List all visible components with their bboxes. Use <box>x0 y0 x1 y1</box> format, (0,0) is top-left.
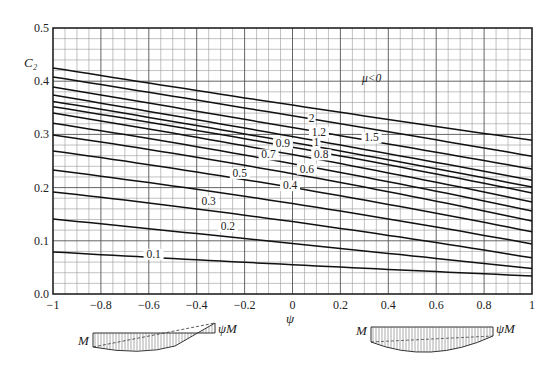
x-tick-label: −1 <box>47 298 60 312</box>
y-tick-label: 0.2 <box>34 181 49 195</box>
y-tick-label: 0.1 <box>34 234 49 248</box>
moment-diagram-reverse-curvature: M ψM <box>77 321 238 351</box>
diagram2-left-label: M <box>355 323 368 338</box>
moment-diagram-single-curvature: M ψM <box>355 321 516 352</box>
diagram2-right-label: ψM <box>496 321 516 336</box>
curve-label: 0.2 <box>221 220 236 232</box>
hatch-fill <box>95 325 212 351</box>
x-tick-label: −0.4 <box>186 298 208 312</box>
curve-label: 2 <box>309 112 315 124</box>
x-tick-label: 0.6 <box>429 298 444 312</box>
curve-label: 1 <box>314 136 320 148</box>
curve-label: 0.9 <box>276 137 291 149</box>
curve-label: 0.4 <box>283 179 298 191</box>
x-tick-label: −0.6 <box>138 298 160 312</box>
curve-label: 0.6 <box>300 163 315 175</box>
curve-label: 0.1 <box>146 248 161 260</box>
x-axis-ticks: −1−0.8−0.6−0.4−0.200.20.40.60.81 <box>47 298 535 312</box>
x-tick-label: 1 <box>529 298 535 312</box>
curve-label: 0.3 <box>201 195 216 207</box>
mu-annotation: μ<0 <box>361 72 382 85</box>
x-tick-label: 0 <box>290 298 296 312</box>
curve-label: 0.8 <box>314 148 329 160</box>
y-tick-label: 0.3 <box>34 127 49 141</box>
x-tick-label: −0.8 <box>90 298 112 312</box>
curve-label: 0.7 <box>261 148 276 160</box>
y-axis-title: C₂ <box>24 55 38 70</box>
curve-label: 0.5 <box>233 167 248 179</box>
x-tick-label: 0.4 <box>381 298 396 312</box>
x-tick-label: 0.2 <box>333 298 348 312</box>
x-axis-title: ψ <box>286 311 295 326</box>
x-tick-label: 0.8 <box>477 298 492 312</box>
c2-chart: 21.51.210.90.80.70.60.50.40.30.20.1 0.00… <box>0 0 557 374</box>
curve-label: 1.5 <box>364 131 379 143</box>
x-tick-label: −0.2 <box>234 298 256 312</box>
y-tick-label: 0.4 <box>34 74 49 88</box>
diagram1-right-label: ψM <box>218 321 238 336</box>
y-tick-label: 0.5 <box>34 21 49 35</box>
diagram1-left-label: M <box>77 333 90 348</box>
